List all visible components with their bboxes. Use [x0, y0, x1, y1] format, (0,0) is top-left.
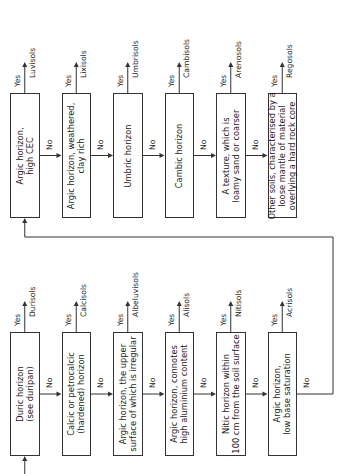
yes-label: Yes: [116, 75, 125, 87]
outcome-label: Regosols: [285, 44, 294, 78]
yes-label: Yes: [13, 75, 22, 87]
soil-classification-flowchart: Argic horizon,high CECYesLuvisolsNoArgic…: [0, 0, 347, 474]
decision-box: A texture, which isloamy sand or coarser: [216, 93, 246, 218]
yes-label: Yes: [64, 314, 73, 326]
no-label: No: [199, 378, 208, 388]
outcome-label: Luvisols: [28, 48, 37, 78]
yes-label: Yes: [270, 75, 279, 87]
decision-question: Umbric horizon: [123, 124, 133, 187]
decision-box: Umbric horizon: [113, 93, 143, 218]
no-label: No: [199, 139, 208, 149]
no-label: No: [251, 139, 260, 149]
outcome-label: Alisols: [182, 293, 191, 317]
decision-box: Nitic horizon within100 cm from the soil…: [216, 332, 246, 456]
decision-question: Argic horizon,high CEC: [15, 127, 35, 184]
outcome-label: Arenosols: [234, 41, 243, 78]
outcome-label: Durisols: [28, 286, 37, 317]
decision-box: Other soils, characterised by aloose man…: [268, 93, 298, 218]
decision-question: Argic horizon, weathered,clay rich: [66, 102, 86, 209]
no-label: No: [45, 378, 54, 388]
no-label: No: [148, 378, 157, 388]
decision-box: Argic horizon,low base saturation: [268, 332, 298, 456]
decision-question: Argic horizon, the uppersurface of which…: [118, 336, 138, 451]
decision-question: A texture, which isloamy sand or coarser: [221, 109, 241, 202]
yes-label: Yes: [116, 314, 125, 326]
decision-question: Duric horizon(see duripan): [15, 366, 35, 422]
no-label: No: [96, 378, 105, 388]
decision-box: Argic horizon, weathered,clay rich: [62, 93, 92, 218]
yes-label: Yes: [219, 314, 228, 326]
no-label: No: [96, 139, 105, 149]
outcome-label: Acrisols: [285, 288, 294, 317]
decision-box: Duric horizon(see duripan): [10, 332, 40, 456]
decision-question: Calcic or petrocalcic(hardened) horizon: [66, 352, 86, 436]
decision-question: Argic horizon,low base saturation: [272, 353, 292, 435]
decision-question: Other soils, characterised by aloose man…: [267, 92, 297, 219]
outcome-label: Albeluvisols: [131, 272, 140, 317]
yes-label: Yes: [219, 75, 228, 87]
decision-box: Cambic horizon: [165, 93, 195, 218]
decision-question: Argic horizon, connoteshigh aluminium co…: [169, 344, 189, 443]
no-label: No: [302, 378, 311, 388]
decision-box: Argic horizon, the uppersurface of which…: [113, 332, 143, 456]
outcome-label: Lixisols: [79, 50, 88, 78]
decision-box: Argic horizon,high CEC: [10, 93, 40, 218]
yes-label: Yes: [167, 75, 176, 87]
outcome-label: Nitisols: [234, 289, 243, 317]
decision-box: Calcic or petrocalcic(hardened) horizon: [62, 332, 92, 456]
no-label: No: [251, 378, 260, 388]
outcome-label: Umbrisols: [131, 40, 140, 78]
no-label: No: [148, 139, 157, 149]
decision-box: Argic horizon, connoteshigh aluminium co…: [165, 332, 195, 456]
yes-label: Yes: [64, 75, 73, 87]
yes-label: Yes: [167, 314, 176, 326]
yes-label: Yes: [270, 314, 279, 326]
yes-label: Yes: [13, 314, 22, 326]
no-label: No: [45, 139, 54, 149]
outcome-label: Cambisols: [182, 39, 191, 78]
outcome-label: Calcisols: [79, 284, 88, 317]
decision-question: Nitic horizon within100 cm from the soil…: [221, 334, 241, 453]
decision-question: Cambic horizon: [174, 123, 184, 187]
